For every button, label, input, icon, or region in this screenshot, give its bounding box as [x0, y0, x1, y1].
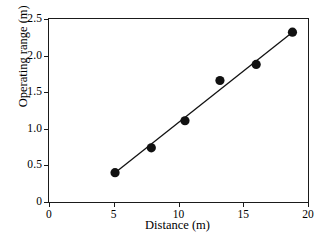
x-axis-title: Distance (m)	[48, 219, 307, 232]
x-tick-1	[114, 202, 115, 207]
x-tick-3	[243, 202, 244, 207]
fit-line-segment	[115, 32, 292, 173]
data-point-0	[110, 168, 119, 177]
fit-line	[115, 32, 292, 173]
data-point-2	[180, 116, 189, 125]
chart-figure: 0 0.5 1.0 1.5 2.0 2.5 0 5 10 15 20 Dista…	[0, 0, 324, 238]
x-tick-0	[49, 202, 50, 207]
x-tick-4	[308, 202, 309, 207]
y-tick-label-0: 0	[36, 196, 42, 208]
y-tick-label-2: 1.0	[27, 123, 42, 135]
data-layer	[49, 19, 308, 202]
data-point-1	[147, 143, 156, 152]
y-tick-label-1: 0.5	[27, 160, 42, 172]
data-point-3	[215, 76, 224, 85]
data-point-5	[288, 28, 297, 37]
plot-area: 0 0.5 1.0 1.5 2.0 2.5 0 5 10 15 20	[48, 18, 309, 203]
y-axis-title: Operating range (m)	[17, 0, 30, 131]
x-tick-2	[179, 202, 180, 207]
data-point-4	[252, 60, 261, 69]
